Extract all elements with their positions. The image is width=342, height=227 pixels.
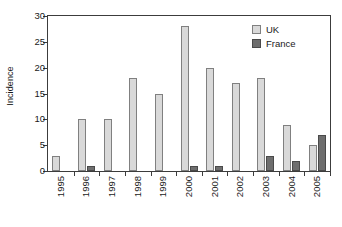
y-axis-tick-label: 5 xyxy=(40,140,45,150)
bar-uk-2004 xyxy=(283,125,291,172)
y-axis-tick-label: 25 xyxy=(34,37,45,47)
uk-swatch-icon xyxy=(252,25,261,34)
france-swatch-icon xyxy=(252,39,261,48)
bar-uk-1999 xyxy=(155,94,163,172)
x-axis-tick-label: 2001 xyxy=(210,176,220,197)
legend-label-uk: UK xyxy=(266,25,279,35)
x-axis-tick-label: 1998 xyxy=(133,176,143,197)
legend-entry-france: France xyxy=(252,38,296,49)
y-axis-tick-label: 0 xyxy=(40,166,45,176)
x-axis-tick-label: 2002 xyxy=(235,176,245,197)
y-axis-title: Incidence xyxy=(2,0,18,172)
bar-uk-2003 xyxy=(257,78,265,171)
y-axis-tick-label: 20 xyxy=(34,63,45,73)
bar-france-2000 xyxy=(190,166,198,171)
bar-france-2003 xyxy=(266,156,274,172)
bar-uk-2000 xyxy=(181,26,189,171)
bar-france-2005 xyxy=(318,135,326,171)
bar-uk-2001 xyxy=(206,68,214,171)
x-axis-tick-label: 1996 xyxy=(81,176,91,197)
legend-label-france: France xyxy=(266,39,296,49)
x-axis-tick-label: 2003 xyxy=(261,176,271,197)
bar-uk-2002 xyxy=(232,83,240,171)
bar-france-1996 xyxy=(87,166,95,171)
x-axis-tick-label: 2000 xyxy=(184,176,194,197)
y-axis-tick-label: 15 xyxy=(34,89,45,99)
bar-chart-figure: Incidence 051015202530 19951996199719981… xyxy=(0,0,342,227)
x-axis-tick-label: 1995 xyxy=(56,176,66,197)
bar-france-2004 xyxy=(292,161,300,171)
x-axis-tick-label: 1997 xyxy=(107,176,117,197)
bar-uk-1997 xyxy=(104,119,112,171)
bar-uk-2005 xyxy=(309,145,317,171)
y-axis-tick-label: 10 xyxy=(34,115,45,125)
x-axis-tick-label: 1999 xyxy=(158,176,168,197)
y-axis-tick-label: 30 xyxy=(34,11,45,21)
x-axis-tick-label: 2005 xyxy=(312,176,322,197)
x-axis-tick-label: 2004 xyxy=(287,176,297,197)
y-axis-title-text: Incidence xyxy=(5,66,15,105)
bar-uk-1995 xyxy=(52,156,60,172)
bar-france-2001 xyxy=(215,166,223,171)
chart-legend: UK France xyxy=(252,24,296,49)
bar-uk-1998 xyxy=(129,78,137,171)
bar-uk-1996 xyxy=(78,119,86,171)
legend-entry-uk: UK xyxy=(252,24,296,35)
x-axis-tick-labels: 1995199619971998199920002001200220032004… xyxy=(47,173,331,227)
